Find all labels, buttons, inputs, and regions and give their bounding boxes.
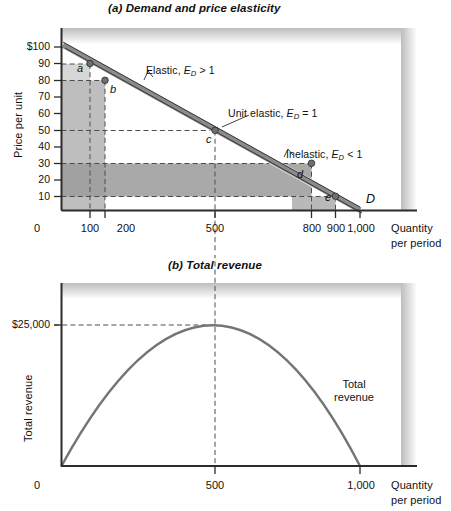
panel-a-ytick-30: 30 bbox=[6, 157, 50, 169]
annotation-elastic-symbol: E bbox=[184, 64, 191, 76]
panel-a-revenue-rectangles bbox=[62, 64, 336, 211]
point-e-marker bbox=[332, 193, 339, 200]
panel-a-y-ticks bbox=[54, 47, 62, 197]
annotation-elastic-relation: > 1 bbox=[196, 64, 214, 76]
panel-b-x-axis-title-line1: Quantity bbox=[391, 479, 433, 491]
total-revenue-label-line2: revenue bbox=[334, 391, 374, 403]
annotation-elastic-text: Elastic, bbox=[146, 64, 184, 76]
rect-d bbox=[62, 164, 312, 197]
panel-a-plot bbox=[0, 0, 451, 255]
point-label-b: b bbox=[110, 83, 116, 95]
point-a-marker bbox=[87, 60, 94, 67]
point-c-marker bbox=[212, 127, 219, 134]
point-label-d: d bbox=[297, 168, 303, 180]
annotation-elastic: Elastic, ED > 1 bbox=[146, 64, 215, 78]
panel-b-xtick-1000: 1,000 bbox=[339, 479, 383, 491]
point-label-e: e bbox=[325, 191, 331, 203]
panel-a-xtick-100: 100 bbox=[70, 222, 110, 234]
panel-b-y-axis-title: Total revenue bbox=[22, 375, 34, 442]
panel-a-xtick-1000: 1,000 bbox=[339, 222, 383, 234]
annotation-inelastic-symbol: E bbox=[331, 148, 338, 160]
panel-b: (b) Total revenue bbox=[0, 255, 451, 511]
panel-b-x-ticks bbox=[215, 466, 360, 474]
panel-a-xtick-500: 500 bbox=[195, 222, 235, 234]
annotation-unit-elastic-symbol: E bbox=[287, 107, 294, 119]
panel-a-x-ticks bbox=[90, 211, 360, 219]
point-label-a: a bbox=[77, 62, 83, 74]
panel-b-frame-shadow bbox=[62, 283, 417, 466]
panel-b-ytick-25000: $25,000 bbox=[0, 318, 50, 330]
panel-a-ytick-90: 90 bbox=[6, 57, 50, 69]
annotation-inelastic-relation: < 1 bbox=[344, 148, 362, 160]
panel-b-xtick-0: 0 bbox=[25, 479, 49, 491]
figure-demand-elasticity-total-revenue: (a) Demand and price elasticity bbox=[0, 0, 451, 511]
panel-b-x-axis-title-line2: per period bbox=[391, 494, 442, 506]
annotation-inelastic-text: Inelastic, bbox=[286, 148, 331, 160]
panel-a-y-axis-title: Price per unit bbox=[12, 92, 24, 158]
panel-a-ytick-10: 10 bbox=[6, 190, 50, 202]
point-label-c: c bbox=[206, 133, 212, 145]
panel-b-xtick-500: 500 bbox=[195, 479, 235, 491]
panel-b-axes bbox=[62, 283, 418, 466]
total-revenue-label-line1: Total bbox=[342, 378, 365, 390]
panel-a-ytick-100: $100 bbox=[6, 40, 50, 52]
annotation-unit-elastic-text: Unit elastic, bbox=[228, 107, 287, 119]
point-b-marker bbox=[102, 77, 109, 84]
total-revenue-curve bbox=[62, 325, 361, 466]
annotation-unit-elastic: Unit elastic, ED = 1 bbox=[228, 107, 318, 121]
panel-a-x-axis-title-line2: per period bbox=[391, 237, 442, 249]
panel-a-x-axis-title-line1: Quantity bbox=[391, 222, 433, 234]
demand-curve-label: D bbox=[366, 192, 375, 206]
annotation-inelastic: Inelastic, ED < 1 bbox=[286, 148, 362, 162]
annotation-unit-elastic-relation: = 1 bbox=[299, 107, 317, 119]
panel-a-xtick-200: 200 bbox=[106, 222, 146, 234]
panel-a-ytick-80: 80 bbox=[6, 74, 50, 86]
panel-a-ytick-20: 20 bbox=[6, 173, 50, 185]
panel-a: (a) Demand and price elasticity bbox=[0, 0, 451, 255]
total-revenue-curve-label: Total revenue bbox=[318, 378, 390, 404]
panel-a-xtick-0: 0 bbox=[25, 222, 49, 234]
